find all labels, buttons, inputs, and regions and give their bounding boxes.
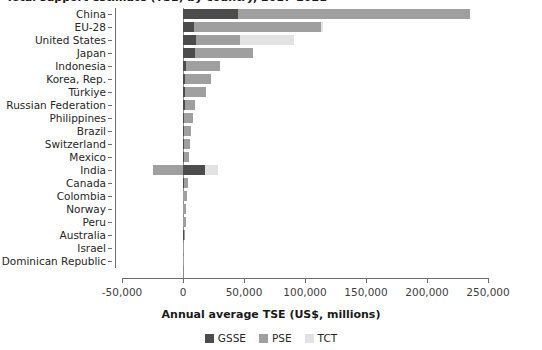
x-tick: [244, 278, 245, 283]
bar-row: [122, 47, 488, 60]
bar-segment-gsse: [183, 9, 238, 19]
category-tick: [108, 14, 112, 15]
bar-segment-pse: [195, 48, 252, 58]
bar-segment-gsse: [183, 48, 195, 58]
bar-row: [122, 255, 488, 268]
bar-segment-pse: [183, 204, 186, 214]
category-tick: [108, 118, 112, 119]
legend-label: GSSE: [218, 332, 246, 344]
bar-segment-gsse: [183, 165, 205, 175]
category-label: Colombia: [57, 190, 106, 203]
bar-row: [122, 21, 488, 34]
category-label: Philippines: [49, 112, 106, 125]
bar-segment-pse: [184, 230, 185, 240]
category-label: Dominican Republic: [2, 255, 106, 268]
bar-segment-pse: [184, 139, 191, 149]
bar-segment-gsse: [183, 35, 196, 45]
legend-item-gsse[interactable]: GSSE: [205, 332, 246, 344]
legend-label: TCT: [318, 332, 338, 344]
category-label: United States: [35, 34, 106, 47]
category-tick: [108, 235, 112, 236]
chart-title: Total support estimate (TSE) by country,…: [6, 0, 327, 4]
x-tick: [366, 278, 367, 283]
bar-row: [122, 99, 488, 112]
category-tick: [108, 66, 112, 67]
bar-segment-gsse: [183, 22, 194, 32]
category-tick: [108, 79, 112, 80]
bar-segment-tct: [240, 35, 294, 45]
category-label: Japan: [77, 47, 106, 60]
category-label: Mexico: [69, 151, 106, 164]
category-tick: [108, 261, 112, 262]
bar-segment-pse: [183, 243, 184, 253]
bar-segment-pse: [184, 113, 193, 123]
category-label: Korea, Rep.: [46, 73, 106, 86]
bar-segment-pse: [184, 152, 189, 162]
category-label: Canada: [66, 177, 106, 190]
bar-segment-pse: [238, 9, 470, 19]
x-tick-label: 0: [180, 286, 187, 298]
plot-area: -50,000050,000100,000150,000200,000250,0…: [122, 8, 488, 278]
category-label: Brazil: [77, 125, 106, 138]
x-tick-label: 50,000: [226, 286, 263, 298]
legend-item-tct[interactable]: TCT: [305, 332, 338, 344]
x-tick: [122, 278, 123, 283]
bar-segment-pse: [196, 35, 240, 45]
category-tick: [108, 105, 112, 106]
bar-segment-pse: [183, 217, 185, 227]
category-label: Australia: [60, 229, 106, 242]
category-tick: [108, 144, 112, 145]
category-label: Türkiye: [68, 86, 106, 99]
category-label: Peru: [83, 216, 106, 229]
category-label: EU-28: [75, 21, 106, 34]
x-axis-title: Annual average TSE (US$, millions): [0, 308, 542, 321]
bar-row: [122, 60, 488, 73]
category-tick: [108, 222, 112, 223]
x-tick-label: 250,000: [466, 286, 509, 298]
x-tick: [488, 278, 489, 283]
legend-label: PSE: [272, 332, 292, 344]
bar-segment-pse: [183, 256, 184, 266]
legend-item-pse[interactable]: PSE: [259, 332, 292, 344]
category-tick: [108, 131, 112, 132]
bar-rows: [122, 8, 488, 278]
x-tick: [427, 278, 428, 283]
chart-container: Total support estimate (TSE) by country,…: [0, 0, 542, 350]
bar-row: [122, 8, 488, 21]
category-label: Russian Federation: [6, 99, 106, 112]
bar-row: [122, 216, 488, 229]
bar-segment-pse: [184, 126, 191, 136]
bar-segment-pse: [184, 178, 188, 188]
legend-swatch-icon: [205, 334, 214, 343]
x-tick-label: -50,000: [102, 286, 143, 298]
category-label: Indonesia: [55, 60, 106, 73]
legend-swatch-icon: [259, 334, 268, 343]
bar-row: [122, 151, 488, 164]
bar-segment-tct: [205, 165, 218, 175]
bar-row: [122, 177, 488, 190]
category-label: Norway: [66, 203, 106, 216]
bar-row: [122, 164, 488, 177]
category-axis: ChinaEU-28United StatesJapanIndonesiaKor…: [0, 8, 116, 278]
bar-segment-pse: [185, 74, 211, 84]
category-tick: [108, 183, 112, 184]
x-tick-label: 100,000: [283, 286, 326, 298]
category-label: Switzerland: [45, 138, 106, 151]
category-label: India: [80, 164, 106, 177]
bar-row: [122, 138, 488, 151]
category-axis-spine: [115, 8, 116, 268]
category-tick: [108, 92, 112, 93]
bar-row: [122, 73, 488, 86]
category-label: China: [76, 8, 106, 21]
category-tick: [108, 248, 112, 249]
bar-row: [122, 86, 488, 99]
x-tick-label: 200,000: [405, 286, 448, 298]
bar-segment-pse: [185, 87, 206, 97]
category-tick: [108, 53, 112, 54]
legend-swatch-icon: [305, 334, 314, 343]
category-tick: [108, 170, 112, 171]
bar-segment-pse: [186, 61, 220, 71]
category-tick: [108, 157, 112, 158]
category-tick: [108, 40, 112, 41]
chart-legend: GSSEPSETCT: [0, 332, 542, 344]
